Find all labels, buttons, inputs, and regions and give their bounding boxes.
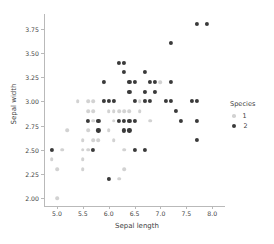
data-point-species-2 bbox=[127, 90, 131, 94]
data-point-species-1 bbox=[138, 100, 142, 104]
x-tick bbox=[109, 206, 110, 209]
y-tick bbox=[41, 77, 44, 78]
legend-entry-2[interactable]: 2 bbox=[228, 121, 274, 131]
data-point-species-1 bbox=[86, 129, 90, 133]
y-axis-label: Sepal width bbox=[10, 64, 18, 144]
legend-entry-1[interactable]: 1 bbox=[228, 111, 274, 121]
data-point-species-2 bbox=[143, 148, 147, 152]
data-point-species-1 bbox=[76, 100, 80, 104]
x-tick bbox=[57, 206, 58, 209]
data-point-species-2 bbox=[107, 99, 111, 103]
data-point-species-2 bbox=[148, 80, 152, 84]
data-point-species-1 bbox=[81, 148, 85, 152]
y-tick-label: 3.25 bbox=[25, 74, 39, 81]
data-point-species-2 bbox=[148, 99, 152, 103]
legend-entry-label: 1 bbox=[243, 112, 247, 120]
data-point-species-1 bbox=[122, 148, 126, 152]
x-tick bbox=[160, 206, 161, 209]
legend: Species 12 bbox=[228, 100, 274, 131]
data-point-species-1 bbox=[117, 177, 121, 181]
y-tick-label: 2.75 bbox=[25, 122, 39, 129]
data-point-species-1 bbox=[55, 196, 59, 200]
legend-marker-icon bbox=[232, 124, 236, 128]
data-point-species-2 bbox=[189, 99, 193, 103]
data-point-species-2 bbox=[164, 99, 168, 103]
data-point-species-2 bbox=[122, 70, 126, 74]
data-point-species-2 bbox=[153, 80, 157, 84]
data-point-species-1 bbox=[97, 138, 101, 142]
data-point-species-1 bbox=[60, 148, 64, 152]
y-tick bbox=[41, 126, 44, 127]
data-point-species-2 bbox=[205, 22, 209, 26]
y-tick-label: 3.75 bbox=[25, 25, 39, 32]
x-tick bbox=[135, 206, 136, 209]
data-point-species-1 bbox=[112, 119, 116, 123]
data-point-species-2 bbox=[86, 119, 90, 123]
data-point-species-2 bbox=[127, 80, 131, 84]
data-point-species-1 bbox=[81, 138, 85, 142]
data-point-species-1 bbox=[107, 109, 111, 113]
data-point-species-2 bbox=[195, 99, 199, 103]
x-tick-label: 6.0 bbox=[104, 210, 114, 217]
data-point-species-2 bbox=[132, 99, 136, 103]
data-point-species-2 bbox=[179, 119, 183, 123]
data-point-species-2 bbox=[117, 119, 121, 123]
data-point-species-1 bbox=[107, 129, 111, 133]
x-tick-label: 5.5 bbox=[78, 210, 88, 217]
data-point-species-1 bbox=[138, 109, 142, 113]
data-point-species-1 bbox=[55, 167, 59, 171]
data-point-species-1 bbox=[91, 119, 95, 123]
y-tick bbox=[41, 198, 44, 199]
data-point-species-2 bbox=[96, 119, 100, 123]
y-tick-label: 2.00 bbox=[25, 195, 39, 202]
data-point-species-1 bbox=[86, 109, 90, 113]
data-point-species-1 bbox=[81, 158, 85, 162]
data-point-species-1 bbox=[122, 109, 126, 113]
y-tick-label: 2.25 bbox=[25, 171, 39, 178]
data-point-species-1 bbox=[148, 119, 152, 123]
legend-title: Species bbox=[230, 100, 274, 108]
data-point-species-1 bbox=[91, 100, 95, 104]
data-point-species-1 bbox=[91, 138, 95, 142]
x-tick bbox=[83, 206, 84, 209]
data-point-species-1 bbox=[159, 80, 163, 84]
scatter-plot-figure: 5.05.56.06.57.07.58.0 2.002.252.502.753.… bbox=[0, 0, 274, 244]
x-tick-label: 7.0 bbox=[156, 210, 166, 217]
y-tick bbox=[41, 29, 44, 30]
x-tick-label: 5.0 bbox=[52, 210, 62, 217]
data-point-species-1 bbox=[112, 138, 116, 142]
data-point-species-2 bbox=[122, 128, 126, 132]
data-point-species-2 bbox=[169, 99, 173, 103]
data-point-species-1 bbox=[117, 109, 121, 113]
data-point-species-1 bbox=[91, 109, 95, 113]
y-tick bbox=[41, 53, 44, 54]
legend-entries: 12 bbox=[228, 111, 274, 131]
y-tick bbox=[41, 174, 44, 175]
data-point-species-2 bbox=[174, 109, 178, 113]
x-tick-label: 8.0 bbox=[207, 210, 217, 217]
data-point-species-2 bbox=[50, 148, 54, 152]
data-point-species-1 bbox=[86, 100, 90, 104]
data-point-species-2 bbox=[117, 60, 121, 64]
y-tick-label: 2.50 bbox=[25, 146, 39, 153]
data-point-species-2 bbox=[195, 138, 199, 142]
data-point-species-2 bbox=[143, 70, 147, 74]
data-point-species-2 bbox=[169, 41, 173, 45]
data-point-species-2 bbox=[127, 128, 131, 132]
x-tick-label: 7.5 bbox=[181, 210, 191, 217]
x-tick-label: 6.5 bbox=[130, 210, 140, 217]
x-axis-label: Sepal length bbox=[0, 222, 274, 230]
legend-marker-icon bbox=[232, 114, 236, 118]
y-axis-line bbox=[44, 14, 45, 206]
data-point-species-1 bbox=[86, 148, 90, 152]
data-point-species-2 bbox=[195, 22, 199, 26]
data-point-species-2 bbox=[169, 80, 173, 84]
y-tick-label: 3.50 bbox=[25, 49, 39, 56]
data-point-species-1 bbox=[81, 167, 85, 171]
y-tick-label: 3.00 bbox=[25, 98, 39, 105]
data-point-species-2 bbox=[127, 119, 131, 123]
x-tick bbox=[186, 206, 187, 209]
y-tick bbox=[41, 150, 44, 151]
data-point-species-1 bbox=[50, 158, 54, 162]
data-point-species-1 bbox=[128, 109, 132, 113]
